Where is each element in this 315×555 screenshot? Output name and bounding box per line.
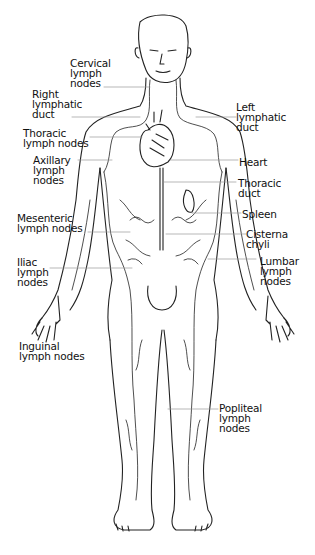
label-lumbar-lymph-nodes: Lumbar lymph nodes bbox=[260, 256, 299, 286]
label-iliac-lymph-nodes: Iliac lymph nodes bbox=[17, 257, 49, 287]
label-right-lymphatic-duct: Right lymphatic duct bbox=[32, 89, 82, 119]
label-left-lymphatic-duct: Left lymphatic duct bbox=[236, 102, 286, 132]
label-mesenteric-lymph-nodes: Mesenteric lymph nodes bbox=[17, 213, 83, 233]
label-spleen: Spleen bbox=[242, 209, 277, 219]
label-thoracic-lymph-nodes: Thoracic lymph nodes bbox=[23, 128, 89, 148]
lymphatic-diagram: Cervical lymph nodes Right lymphatic duc… bbox=[0, 0, 315, 555]
label-thoracic-duct: Thoracic duct bbox=[238, 178, 281, 198]
label-axillary-lymph-nodes: Axillary lymph nodes bbox=[33, 155, 71, 185]
label-inguinal-lymph-nodes: Inguinal lymph nodes bbox=[19, 341, 85, 361]
label-heart: Heart bbox=[239, 157, 267, 167]
label-cervical-lymph-nodes: Cervical lymph nodes bbox=[70, 58, 111, 88]
label-popliteal-lymph-nodes: Popliteal lymph nodes bbox=[219, 403, 262, 433]
label-cisterna-chyli: Cisterna chyli bbox=[246, 229, 288, 249]
